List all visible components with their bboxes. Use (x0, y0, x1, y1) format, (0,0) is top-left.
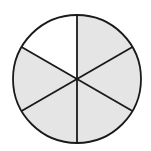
fraction-circle-diagram (0, 0, 151, 151)
